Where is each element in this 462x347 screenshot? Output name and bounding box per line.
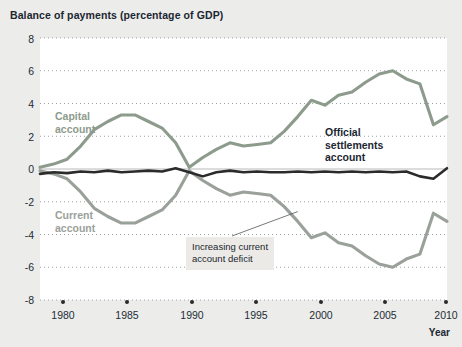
annotation-line1: Increasing current <box>192 241 268 253</box>
chart-page: Balance of payments (percentage of GDP) … <box>0 0 462 347</box>
capital-label-line1: Capital <box>55 110 95 123</box>
x-tick-dot-1985 <box>125 300 129 304</box>
chart-svg <box>0 0 462 347</box>
x-tick-dot-1995 <box>254 300 258 304</box>
x-tick-dot-1990 <box>190 300 194 304</box>
x-axis-title: Year <box>429 327 450 338</box>
x-tick-dot-2005 <box>383 300 387 304</box>
x-tick-dot-2000 <box>319 300 323 304</box>
series-line-official-settlements-account <box>40 168 447 179</box>
current-label-line2: account <box>55 222 95 235</box>
current-label-line1: Current <box>55 209 95 222</box>
series-label-official-settlements-account: Official settlements account <box>325 126 383 164</box>
x-tick-dot-1980 <box>61 300 65 304</box>
capital-label-line2: account <box>55 123 95 136</box>
x-tick-1995: 1995 <box>233 309 279 321</box>
official-label-line2: settlements <box>325 139 383 152</box>
x-tick-1980: 1980 <box>40 309 86 321</box>
series-line-capital-account <box>40 71 447 168</box>
official-label-line1: Official <box>325 126 383 139</box>
annotation-line2: account deficit <box>192 253 268 265</box>
series-label-current-account: Current account <box>55 209 95 234</box>
x-tick-1990: 1990 <box>169 309 215 321</box>
x-tick-2000: 2000 <box>298 309 344 321</box>
series-label-capital-account: Capital account <box>55 110 95 135</box>
x-tick-2010: 2010 <box>423 309 462 321</box>
plot-area: 8 6 4 2 0 -2 -4 -6 -8 1980 1985 1990 199… <box>0 0 462 347</box>
annotation-increasing-current-account-deficit: Increasing current account deficit <box>186 237 274 270</box>
annotation-leader-line <box>232 212 298 236</box>
official-label-line3: account <box>325 151 383 164</box>
x-tick-dot-2010 <box>444 300 448 304</box>
x-tick-2005: 2005 <box>362 309 408 321</box>
x-tick-1985: 1985 <box>104 309 150 321</box>
